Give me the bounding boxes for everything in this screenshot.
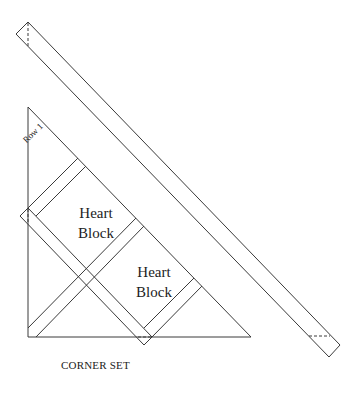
corner-triangle (28, 107, 251, 337)
heart-block-1-label: Heart Block (66, 203, 126, 243)
corner-set-diagram (0, 0, 359, 394)
heart-block-2-label: Heart Block (124, 262, 184, 302)
border-strip (16, 22, 340, 357)
diagram-caption: CORNER SET (61, 359, 130, 371)
